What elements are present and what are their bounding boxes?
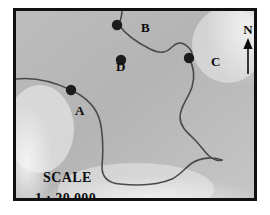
north-arrow-icon [235,36,257,74]
compass-rose: N [235,22,257,74]
point-label-d: D [116,60,125,73]
point-label-b: B [141,21,150,34]
point-label-a: A [75,104,84,117]
scale-block: SCALE 1 : 20 000 [43,170,96,201]
map-figure: A B C D N SCALE 1 : 20 000 [0,0,270,215]
point-marker-c[interactable] [184,53,194,63]
map-frame: A B C D N SCALE 1 : 20 000 [13,8,257,201]
point-marker-a[interactable] [66,85,76,95]
scale-title: SCALE [43,170,96,186]
scale-ratio: 1 : 20 000 [35,191,96,201]
point-label-c: C [211,55,220,68]
point-marker-b[interactable] [112,20,122,30]
